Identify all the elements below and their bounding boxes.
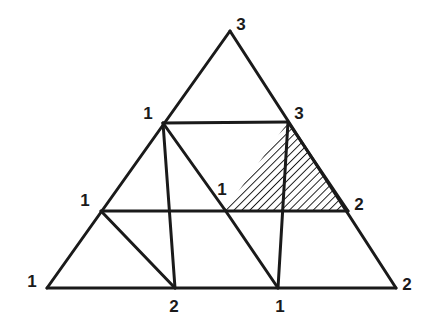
triangulation-edge xyxy=(163,123,175,288)
vertex-label-upper-right: 3 xyxy=(294,105,303,122)
vertex-label-apex: 3 xyxy=(236,16,245,33)
vertex-label-bottom-left-corner: 1 xyxy=(27,273,36,290)
vertex-label-bottom-mid-left: 2 xyxy=(169,298,178,315)
triangulation-edge xyxy=(163,123,225,210)
vertex-label-bottom-right-corner: 2 xyxy=(402,276,411,293)
triangulation-edge xyxy=(163,122,288,123)
triangulation-edges xyxy=(47,31,396,288)
vertex-label-mid-right: 2 xyxy=(354,196,363,213)
sperner-diagram: 3131121212 xyxy=(0,0,432,327)
triangulation-edge xyxy=(225,210,278,288)
vertex-label-mid-left: 1 xyxy=(80,192,89,209)
vertex-label-upper-left: 1 xyxy=(143,105,152,122)
vertex-label-bottom-mid-right: 1 xyxy=(275,298,284,315)
triangulation-canvas xyxy=(0,0,432,327)
triangulation-edge xyxy=(101,211,175,288)
vertex-label-mid-center: 1 xyxy=(217,181,226,198)
